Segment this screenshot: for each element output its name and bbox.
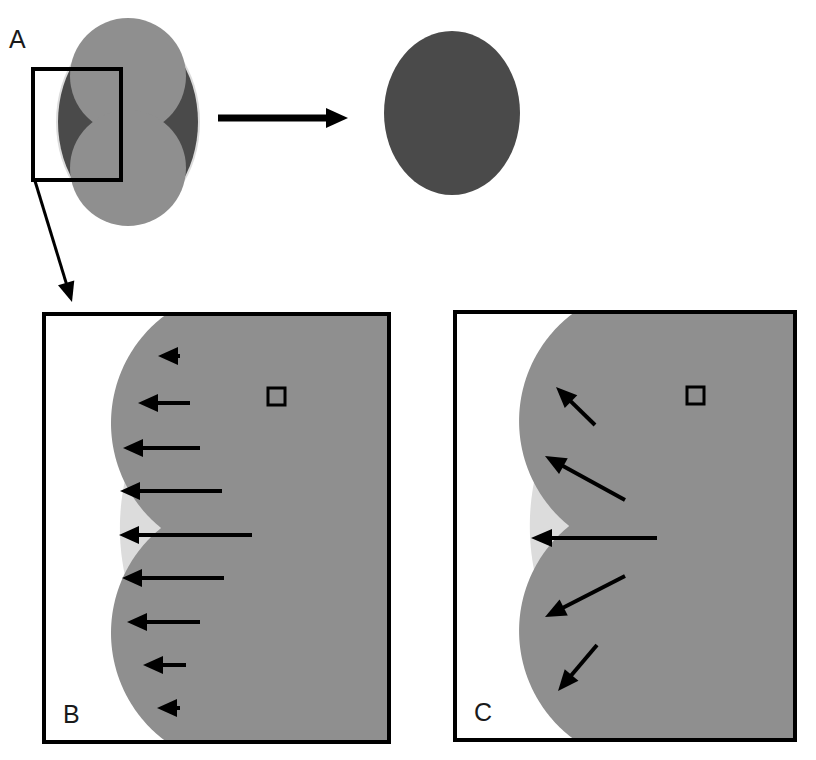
transformation-arrow [218,108,348,128]
panel-a-group [33,18,520,302]
panel-label-c: C [474,700,492,725]
inset-pointer-arrow [35,181,74,302]
panel-c-group [455,312,795,740]
panel-label-a: A [9,27,26,52]
final-cell-ellipse [384,31,520,195]
panel-b-group [44,314,389,742]
figure-root: A B C [0,0,816,760]
panel-label-b: B [63,702,80,727]
figure-graphics [0,0,816,760]
lobe-bottom-circle [70,110,186,226]
